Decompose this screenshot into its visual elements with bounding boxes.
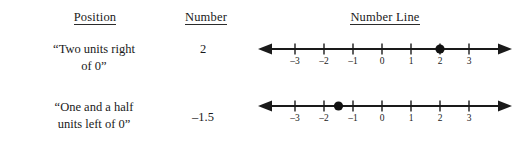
tick-label: 0: [380, 56, 385, 66]
arrow-left-icon: [258, 101, 272, 112]
number-line-svg: –3 –2 –1 0 1 2 3: [255, 93, 517, 123]
column-header-number-label: Number: [185, 10, 227, 25]
column-header-number-line-label: Number Line: [350, 10, 419, 25]
number-line-diagram: –3 –2 –1 0 1 2 3: [255, 36, 517, 66]
tick-label: –1: [347, 56, 358, 66]
tick-label: 1: [409, 56, 414, 66]
column-header-number-line: Number Line: [255, 10, 515, 25]
number-cell: –1.5: [163, 110, 243, 125]
arrow-left-icon: [258, 44, 272, 55]
tick-label: –2: [318, 113, 329, 123]
tick-label: –1: [347, 113, 358, 123]
number-line-svg: –3 –2 –1 0 1 2 3: [255, 36, 517, 66]
tick-label: 2: [438, 56, 443, 66]
position-cell: “One and a half units left of 0”: [26, 99, 162, 133]
column-header-position: Position: [30, 10, 160, 25]
position-text-line-2: units left of 0”: [26, 116, 162, 133]
arrow-right-icon: [498, 101, 512, 112]
position-text-line-1: “Two units right: [26, 41, 162, 58]
plotted-point: [435, 44, 444, 53]
tick-label: 3: [467, 56, 472, 66]
tick-label: –3: [289, 56, 300, 66]
tick-label: 3: [467, 113, 472, 123]
position-cell: “Two units right of 0”: [26, 41, 162, 75]
arrow-right-icon: [498, 44, 512, 55]
number-cell: 2: [163, 42, 243, 57]
tick-labels: –3 –2 –1 0 1 2 3: [289, 113, 471, 123]
tick-label: –2: [318, 56, 329, 66]
plotted-point: [334, 101, 343, 110]
tick-label: 0: [380, 113, 385, 123]
number-line-diagram: –3 –2 –1 0 1 2 3: [255, 93, 517, 123]
position-text-line-2: of 0”: [26, 58, 162, 75]
tick-label: 2: [438, 113, 443, 123]
tick-labels: –3 –2 –1 0 1 2 3: [289, 56, 471, 66]
tick-label: –3: [289, 113, 300, 123]
tick-label: 1: [409, 113, 414, 123]
column-header-position-label: Position: [74, 10, 117, 25]
position-text-line-1: “One and a half: [26, 99, 162, 116]
column-header-number: Number: [162, 10, 250, 25]
